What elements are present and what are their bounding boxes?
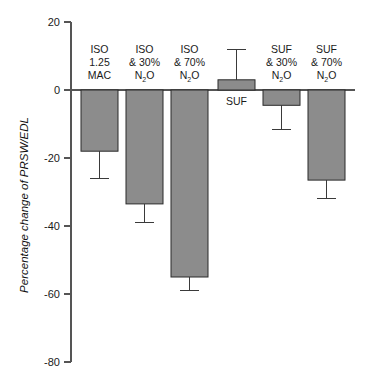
ytick-label-neg20: -20 (44, 152, 60, 164)
cat5-line2: & 30% (266, 56, 297, 68)
cat3-line1: ISO (180, 43, 198, 55)
cat5-line1: SUF (271, 43, 292, 55)
ytick-label-neg40: -40 (44, 220, 60, 232)
category-label-iso-125-mac: ISO 1.25 MAC (88, 43, 112, 81)
cat1-line2: 1.25 (89, 56, 110, 68)
cat6-line2: & 70% (311, 56, 342, 68)
cat6-line1: SUF (316, 43, 337, 55)
cat3-n: N (180, 69, 188, 81)
ytick-label-neg60: -60 (44, 288, 60, 300)
cat1-line3: MAC (88, 69, 112, 81)
cat2-o: O (146, 69, 154, 81)
bar-chart-percentage-change-prsw-edl: Percentage change of PRSW/EDL 20 0 -20 -… (0, 0, 365, 389)
cat1-line1: ISO (90, 43, 108, 55)
cat6-o: O (328, 69, 336, 81)
cat6-n: N (317, 69, 325, 81)
y-axis-label: Percentage change of PRSW/EDL (18, 117, 30, 293)
cat3-o: O (191, 69, 199, 81)
ytick-label-neg80: -80 (44, 356, 60, 368)
bar-suf (218, 80, 255, 90)
bar-iso-70-n2o (171, 90, 208, 277)
ytick-label-20: 20 (48, 16, 60, 28)
cat3-line2: & 70% (174, 56, 205, 68)
cat2-line2: & 30% (129, 56, 160, 68)
cat2-n: N (135, 69, 143, 81)
bar-suf-30-n2o (263, 90, 300, 105)
cat4-line1: SUF (226, 95, 247, 107)
bar-group-iso-70-n2o (171, 90, 208, 291)
bar-group-iso-30-n2o (126, 90, 163, 223)
cat5-n: N (272, 69, 280, 81)
cat2-line1: ISO (135, 43, 153, 55)
ytick-label-0: 0 (54, 84, 60, 96)
cat5-o: O (283, 69, 291, 81)
category-label-suf: SUF (226, 95, 247, 107)
bar-iso-125-mac (81, 90, 118, 151)
bar-suf-70-n2o (308, 90, 345, 180)
bar-iso-30-n2o (126, 90, 163, 204)
